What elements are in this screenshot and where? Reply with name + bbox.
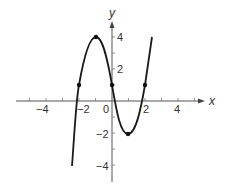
x-tick-label-neg4: −4 [36, 103, 49, 115]
point-2-1 [143, 83, 147, 87]
x-tick-label-4: 4 [174, 103, 180, 115]
y-axis-label: y [108, 6, 116, 20]
x-axis-arrow-icon [198, 99, 205, 104]
y-axis-arrow-icon [110, 21, 115, 28]
point-min [126, 132, 130, 136]
point-neg2-1 [77, 83, 81, 87]
point-max [94, 35, 98, 39]
y-tick-label-neg4: −4 [96, 160, 109, 172]
y-tick-label-neg2: −2 [96, 128, 109, 140]
x-axis-label: x [208, 94, 216, 108]
x-tick-label-origin: 0 [103, 103, 109, 115]
x-tick-label-neg2: −2 [77, 103, 90, 115]
x-tick-label-2: 2 [143, 103, 149, 115]
y-tick-label-4: 4 [117, 31, 123, 43]
y-tick-label-2: 2 [117, 63, 123, 75]
function-graph: x y −4 −2 0 2 4 4 2 −2 −4 [0, 0, 227, 196]
point-0-1 [110, 83, 114, 87]
